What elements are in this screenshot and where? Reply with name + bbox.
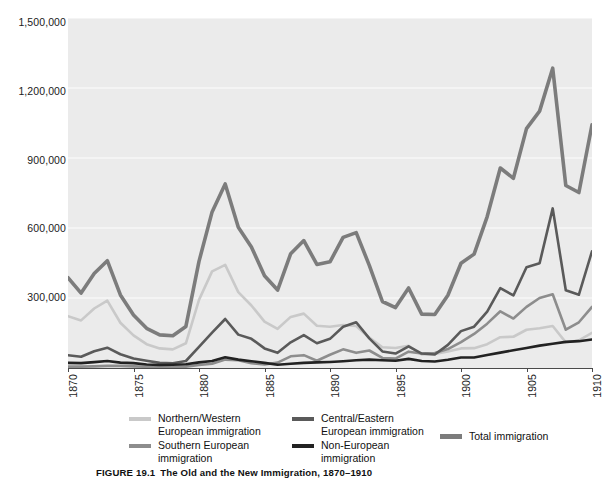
x-axis-tick-label: 1910	[592, 374, 603, 398]
series-lines	[68, 68, 592, 367]
x-axis-tick-mark	[134, 368, 135, 372]
y-axis-tick-label: 1,500,000	[4, 17, 66, 28]
legend-entry-northern-western: Northern/Western European immigration	[129, 412, 279, 437]
series-line-central-eastern	[68, 208, 592, 363]
legend-swatch-icon	[292, 417, 314, 421]
y-axis-tick-label: 300,000	[4, 292, 66, 303]
series-line-southern	[68, 294, 592, 367]
x-axis-tick-label: 1905	[527, 374, 538, 398]
legend-label: Non-European immigration	[321, 439, 389, 464]
y-axis-tick-label: 1,200,000	[4, 86, 66, 97]
series-line-northern-western	[68, 265, 592, 355]
x-axis-tick-mark	[330, 368, 331, 372]
legend-entry-central-eastern: Central/Eastern European immigration	[292, 412, 452, 437]
x-axis-tick-label: 1895	[396, 374, 407, 398]
plot-area	[68, 18, 592, 368]
x-axis-tick-mark	[199, 368, 200, 372]
x-axis: 187018751880188518901895190019051910	[68, 368, 592, 410]
chart-legend: Northern/Western European immigration Ce…	[0, 410, 598, 466]
legend-label: Total immigration	[469, 430, 548, 443]
legend-entry-non-european: Non-European immigration	[292, 439, 452, 464]
y-axis-tick-label: 900,000	[4, 155, 66, 166]
legend-swatch-icon	[129, 417, 151, 421]
x-axis-tick-mark	[265, 368, 266, 372]
legend-label: Northern/Western European immigration	[158, 412, 261, 437]
x-axis-tick-label: 1900	[461, 374, 472, 398]
legend-label: Southern European immigration	[158, 439, 249, 464]
x-axis-tick-label: 1870	[68, 374, 79, 398]
gridlines	[68, 18, 592, 298]
legend-swatch-icon	[129, 444, 151, 448]
legend-swatch-icon	[292, 444, 314, 448]
y-axis-tick-label: 600,000	[4, 223, 66, 234]
legend-entry-total: Total immigration	[440, 430, 590, 443]
x-axis-tick-mark	[396, 368, 397, 372]
legend-entry-southern: Southern European immigration	[129, 439, 279, 464]
figure-caption: FIGURE 19.1The Old and the New Immigrati…	[96, 467, 576, 478]
line-chart-svg	[68, 18, 592, 368]
y-axis: 1,500,000 1,200,000 900,000 600,000 300,…	[0, 0, 66, 380]
x-axis-tick-mark	[68, 368, 69, 372]
x-axis-tick-label: 1890	[330, 374, 341, 398]
x-axis-tick-label: 1885	[265, 374, 276, 398]
x-axis-tick-label: 1880	[199, 374, 210, 398]
x-axis-tick-mark	[592, 368, 593, 372]
x-axis-tick-label: 1875	[134, 374, 145, 398]
x-axis-tick-mark	[461, 368, 462, 372]
x-axis-tick-mark	[527, 368, 528, 372]
figure-caption-title: The Old and the New Immigration, 1870–19…	[160, 467, 372, 478]
figure-caption-number: FIGURE 19.1	[96, 467, 155, 478]
legend-label: Central/Eastern European immigration	[321, 412, 424, 437]
